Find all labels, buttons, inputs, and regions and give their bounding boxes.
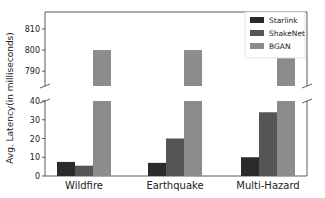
broken-axis-bar-chart: 790800810 010203040 WildfireEarthquakeMu…: [0, 0, 325, 198]
bar-bgan: [184, 101, 202, 176]
legend-label-starlink: Starlink: [269, 16, 298, 25]
legend-label-bgan: BGAN: [269, 42, 291, 51]
bar-shakenet: [166, 139, 184, 177]
y-tick-label: 30: [30, 116, 40, 125]
legend-swatch-starlink: [250, 17, 264, 23]
bar-bgan-upper: [93, 50, 111, 86]
bar-bgan-upper: [184, 50, 202, 86]
bar-starlink: [57, 162, 75, 176]
y-tick-label: 10: [30, 153, 40, 162]
lower-panel: 010203040 WildfireEarthquakeMulti-Hazard: [30, 97, 312, 191]
bar-starlink: [148, 163, 166, 176]
bar-starlink: [241, 157, 259, 176]
y-tick-label: 0: [35, 172, 40, 181]
x-tick-label: Multi-Hazard: [236, 180, 299, 191]
x-tick-label: Wildfire: [65, 180, 103, 191]
bar-bgan: [93, 101, 111, 176]
bar-bgan: [277, 101, 295, 176]
legend: StarlinkShakeNetBGAN: [245, 12, 305, 58]
y-tick-label: 20: [30, 135, 40, 144]
bar-shakenet: [259, 112, 277, 176]
legend-label-shakenet: ShakeNet: [269, 29, 305, 38]
y-tick-label: 810: [25, 25, 40, 34]
y-tick-label: 790: [25, 67, 40, 76]
bar-shakenet: [75, 166, 93, 176]
legend-swatch-bgan: [250, 43, 264, 49]
x-tick-label: Earthquake: [146, 180, 203, 191]
y-tick-label: 800: [25, 46, 40, 55]
y-axis-label: Avg. Latency(in milliseconds): [5, 32, 15, 164]
y-tick-label: 40: [30, 97, 40, 106]
legend-swatch-shakenet: [250, 30, 264, 36]
